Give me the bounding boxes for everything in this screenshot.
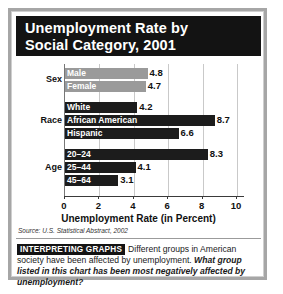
bar-value: 3.1 xyxy=(118,174,133,186)
x-tick xyxy=(167,196,168,199)
bar-label: 45–64 xyxy=(67,175,91,186)
bar-chart: Male4.8Female4.7White4.2African American… xyxy=(16,60,261,210)
figure-title-line-2: Social Category, 2001 xyxy=(25,37,261,54)
x-tick xyxy=(64,196,65,199)
bar-value: 4.8 xyxy=(148,67,163,79)
x-tick-label: 8 xyxy=(199,200,204,211)
x-tick-label: 2 xyxy=(96,200,101,211)
bar-value: 4.1 xyxy=(136,161,151,173)
bar-label: White xyxy=(67,102,90,113)
group-label-sex: Sex xyxy=(16,74,62,84)
section-divider xyxy=(16,238,261,239)
figure-root: Unemployment Rate by Social Category, 20… xyxy=(0,0,283,294)
bar-value: 4.2 xyxy=(137,101,152,113)
plot-right-edge xyxy=(237,64,238,196)
figure-inner: Unemployment Rate by Social Category, 20… xyxy=(11,11,264,277)
x-tick xyxy=(98,196,99,199)
source-note: Source: U.S. Statistical Abstract, 2002 xyxy=(18,227,128,234)
bar-value: 4.7 xyxy=(146,80,161,92)
bar-row: White4.2 xyxy=(65,102,237,113)
bar-row: African American8.7 xyxy=(65,115,237,126)
x-tick-label: 0 xyxy=(61,200,66,211)
bar-label: 25–44 xyxy=(67,162,91,173)
bar-value: 8.3 xyxy=(208,148,223,160)
x-tick-label: 6 xyxy=(165,200,170,211)
bar-row: 20–248.3 xyxy=(65,149,237,160)
bar-row: 45–643.1 xyxy=(65,175,237,186)
x-axis-line xyxy=(64,196,244,197)
bar-row: Hispanic6.6 xyxy=(65,128,237,139)
caption-block: INTERPRETING GRAPHSDifferent groups in A… xyxy=(17,244,262,288)
caption-tag: INTERPRETING GRAPHS xyxy=(17,244,125,255)
bar-label: African American xyxy=(67,115,137,126)
bar-value: 6.6 xyxy=(179,127,194,139)
x-tick-label: 4 xyxy=(130,200,135,211)
plot-area: Male4.8Female4.7White4.2African American… xyxy=(64,64,236,196)
x-tick xyxy=(133,196,134,199)
bar-label: Female xyxy=(67,81,96,92)
bar-row: 25–444.1 xyxy=(65,162,237,173)
bar-row: Male4.8 xyxy=(65,68,237,79)
bar-label: Male xyxy=(67,68,86,79)
x-tick xyxy=(236,196,237,199)
group-label-age: Age xyxy=(16,162,62,172)
figure-title-banner: Unemployment Rate by Social Category, 20… xyxy=(16,16,261,56)
x-axis-title: Unemployment Rate (in Percent) xyxy=(16,213,261,224)
bar-label: 20–24 xyxy=(67,149,91,160)
bar-value: 8.7 xyxy=(215,114,230,126)
figure-frame: Unemployment Rate by Social Category, 20… xyxy=(8,8,267,280)
group-label-race: Race xyxy=(16,115,62,125)
bar-row: Female4.7 xyxy=(65,81,237,92)
bar-label: Hispanic xyxy=(67,128,102,139)
figure-title-line-1: Unemployment Rate by xyxy=(25,20,261,37)
x-tick xyxy=(202,196,203,199)
x-tick-label: 10 xyxy=(231,200,242,211)
